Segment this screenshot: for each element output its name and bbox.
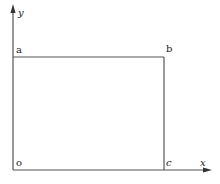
y-axis-arrow-icon — [11, 4, 16, 13]
coordinate-diagram: y x a b o c — [0, 0, 220, 184]
point-label-b: b — [166, 43, 172, 54]
y-axis-label: y — [17, 7, 24, 18]
point-label-a: a — [16, 44, 22, 55]
point-label-c: c — [166, 157, 172, 168]
x-axis-label: x — [200, 157, 206, 168]
point-label-o: o — [16, 157, 22, 168]
x-axis-arrow-icon — [203, 168, 212, 173]
